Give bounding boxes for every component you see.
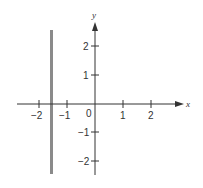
x-tick-label-neg2: −2 [31,110,43,121]
y-axis-arrow-icon [92,22,98,31]
x-tick-label-1: 1 [120,110,126,121]
x-tick-label-neg1: −1 [59,110,71,121]
y-tick-label-1: 1 [83,70,89,81]
x-axis-label: x [185,99,190,109]
coordinate-plane: x y −2 −1 0 1 2 2 1 −1 −2 [0,0,203,188]
x-tick-label-2: 2 [148,110,154,121]
y-tick-label-neg1: −1 [78,127,90,138]
y-axis-label: y [91,10,96,20]
x-axis-arrow-icon [175,101,184,107]
y-tick-label-2: 2 [83,41,89,52]
y-tick-label-neg2: −2 [78,156,90,167]
origin-label: 0 [86,108,92,119]
